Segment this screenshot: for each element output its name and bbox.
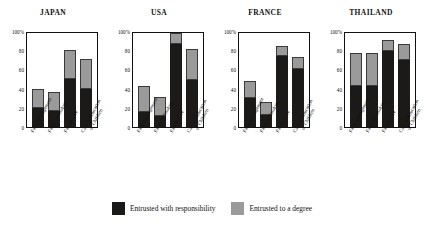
y-axis-tick: 40 <box>337 88 345 93</box>
y-axis-tick: 60 <box>231 69 239 74</box>
y-axis-tick: 80 <box>19 50 27 55</box>
bar-segment-entrusted-to-a-degree <box>64 50 76 79</box>
y-axis-tick: 60 <box>337 69 345 74</box>
bar-segment-entrusted-to-a-degree <box>244 81 256 98</box>
panel-france: FRANCE100%806040200Farm ManagementFarm T… <box>212 0 318 190</box>
bar-segment-entrusted-to-a-degree <box>398 44 410 60</box>
x-axis-labels: Farm ManagementFarm TechnologyFamily Lif… <box>132 129 204 189</box>
bar-segment-entrusted-to-a-degree <box>80 59 92 89</box>
panel-title: JAPAN <box>0 8 106 17</box>
y-axis-tick: 100% <box>224 30 239 35</box>
y-axis-tick: 80 <box>231 50 239 55</box>
panel-title: USA <box>106 8 212 17</box>
y-axis-tick: 60 <box>19 69 27 74</box>
legend-label-degree: Entrusted to a degree <box>249 204 312 213</box>
bar-segment-entrusted-to-a-degree <box>350 53 362 86</box>
legend-label-responsibility: Entrusted with responsibility <box>130 204 215 213</box>
x-axis-labels: Farm ManagementFarm TechnologyFamily Lif… <box>26 129 98 189</box>
x-axis-labels: Farm ManagementFarm TechnologyFamily Lif… <box>238 129 310 189</box>
bar-segment-entrusted-to-a-degree <box>186 49 198 80</box>
panel-group: JAPAN100%806040200Farm ManagementFarm Te… <box>0 0 424 190</box>
y-axis-tick: 100% <box>330 30 345 35</box>
y-axis-tick: 20 <box>19 107 27 112</box>
legend-item-responsibility: Entrusted with responsibility <box>112 202 215 215</box>
y-axis-tick: 20 <box>125 107 133 112</box>
bar-segment-entrusted-to-a-degree <box>170 33 182 45</box>
legend-item-degree: Entrusted to a degree <box>231 202 312 215</box>
chart-legend: Entrusted with responsibility Entrusted … <box>0 192 424 224</box>
panel-thailand: THAILAND100%806040200Farm ManagementFarm… <box>318 0 424 190</box>
y-axis-tick: 80 <box>125 50 133 55</box>
y-axis-tick: 100% <box>12 30 27 35</box>
bar-segment-entrusted-to-a-degree <box>276 46 288 56</box>
panel-title: THAILAND <box>318 8 424 17</box>
legend-swatch-black-icon <box>112 202 125 215</box>
legend-swatch-gray-icon <box>231 202 244 215</box>
y-axis-tick: 80 <box>337 50 345 55</box>
bar-segment-entrusted-to-a-degree <box>382 40 394 52</box>
x-axis-labels: Farm ManagementFarm TechnologyFamily Lif… <box>344 129 416 189</box>
bar-segment-entrusted-to-a-degree <box>366 53 378 86</box>
y-axis-tick: 100% <box>118 30 133 35</box>
y-axis-tick: 40 <box>19 88 27 93</box>
panel-japan: JAPAN100%806040200Farm ManagementFarm Te… <box>0 0 106 190</box>
y-axis-tick: 40 <box>125 88 133 93</box>
panel-usa: USA100%806040200Farm ManagementFarm Tech… <box>106 0 212 190</box>
y-axis-tick: 20 <box>337 107 345 112</box>
y-axis-tick: 60 <box>125 69 133 74</box>
bar-segment-entrusted-to-a-degree <box>292 57 304 69</box>
y-axis-tick: 20 <box>231 107 239 112</box>
stacked-bar-chart: JAPAN100%806040200Farm ManagementFarm Te… <box>0 0 424 228</box>
y-axis-tick: 40 <box>231 88 239 93</box>
panel-title: FRANCE <box>212 8 318 17</box>
